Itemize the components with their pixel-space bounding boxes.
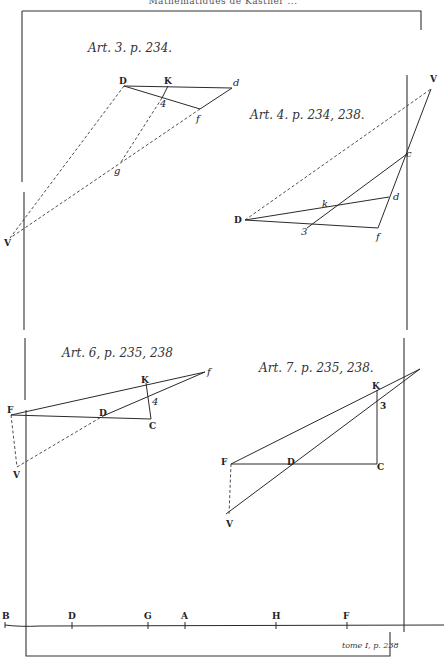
point-label-4: 4 — [151, 396, 158, 407]
point-label-D: D — [287, 457, 295, 467]
figure-art6: Art. 6, p. 235, 238 f K 4 F D C V — [7, 346, 213, 480]
figure-art7: Art. 7. p. 235, 238. K 3 F D C V — [221, 361, 420, 529]
point-label-f: f — [195, 113, 202, 124]
point-label-g: g — [114, 165, 120, 176]
scale-line: B D G A H F — [2, 611, 444, 629]
point-label-K: K — [141, 375, 150, 385]
point-label-k: k — [322, 198, 328, 209]
point-label-D: D — [234, 215, 242, 225]
scale-label-D: D — [68, 611, 76, 621]
caption-art4: Art. 4. p. 234, 238. — [249, 108, 365, 122]
point-label-C: C — [149, 421, 156, 431]
point-label-f: f — [375, 231, 382, 242]
point-label-c: c — [406, 148, 412, 159]
point-label-D: D — [119, 76, 127, 86]
figure-art3: Art. 3. p. 234. D K d 4 f g V — [3, 41, 239, 248]
scale-label-G: G — [144, 611, 152, 621]
point-label-D: D — [99, 408, 107, 418]
plate-drawing: Art. 3. p. 234. D K d 4 f g V Art. 4. p.… — [0, 0, 444, 663]
point-label-V: V — [3, 238, 12, 248]
caption-art3: Art. 3. p. 234. — [87, 41, 172, 55]
point-label-3: 3 — [380, 401, 386, 411]
point-label-3: 3 — [301, 226, 307, 237]
point-label-K: K — [372, 381, 381, 391]
point-label-K: K — [164, 76, 173, 86]
footer-reference: tome I, p. 238 — [342, 641, 399, 650]
page-header: Mathématiques de Kästner ... — [128, 0, 318, 4]
point-label-F: F — [7, 405, 14, 415]
point-label-V: V — [429, 74, 438, 84]
caption-art7: Art. 7. p. 235, 238. — [258, 361, 374, 375]
scale-label-F: F — [343, 611, 350, 621]
diagram-plate: Mathématiques de Kästner ... Art. 3. p. … — [0, 0, 444, 663]
point-label-4: 4 — [159, 98, 166, 109]
point-label-C: C — [377, 462, 384, 472]
caption-art6: Art. 6, p. 235, 238 — [61, 346, 173, 360]
point-label-d: d — [233, 77, 239, 88]
point-label-d: d — [393, 191, 399, 202]
scale-label-B: B — [2, 611, 10, 621]
point-label-V: V — [12, 470, 21, 480]
point-label-F: F — [221, 457, 228, 467]
scale-label-A: A — [180, 611, 189, 621]
point-label-f: f — [206, 366, 213, 377]
point-label-V: V — [225, 519, 234, 529]
scale-label-H: H — [272, 611, 281, 621]
